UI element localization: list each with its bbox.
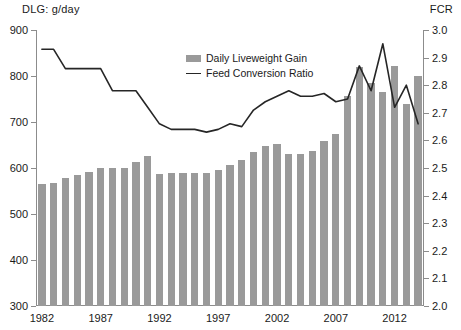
left-tick-label: 300 [10,301,28,312]
right-tick-label: 3.0 [432,25,447,36]
right-tick-mark [424,223,429,224]
line-swatch-icon [186,73,201,74]
legend-label-dlg: Daily Liveweight Gain [206,52,307,64]
left-tick-label: 800 [10,71,28,82]
right-tick-label: 2.3 [432,218,447,229]
right-tick-label: 2.7 [432,107,447,118]
right-tick-mark [424,251,429,252]
right-tick-label: 2.1 [432,273,447,284]
right-tick-label: 2.8 [432,80,447,91]
right-tick-mark [424,85,429,86]
x-tick-label: 1982 [30,313,54,324]
right-tick-mark [424,168,429,169]
bar-swatch-icon [186,55,201,62]
right-tick-mark [424,30,429,31]
x-tick-label: 1997 [206,313,230,324]
left-tick-label: 900 [10,25,28,36]
right-tick-label: 2.6 [432,135,447,146]
right-tick-label: 2.4 [432,190,447,201]
left-tick-label: 600 [10,163,28,174]
x-tick-label: 2002 [265,313,289,324]
right-tick-mark [424,278,429,279]
right-tick-mark [424,140,429,141]
x-tick-label: 1992 [147,313,171,324]
chart-legend: Daily Liveweight Gain Feed Conversion Ra… [186,52,313,79]
left-tick-label: 500 [10,209,28,220]
left-tick-label: 700 [10,117,28,128]
right-tick-label: 2.9 [432,52,447,63]
plot-area: 300400500600700800900 2.02.12.22.32.42.5… [36,30,424,306]
right-axis-caption: FCR [430,3,453,15]
right-tick-mark [424,58,429,59]
legend-label-fcr: Feed Conversion Ratio [206,67,313,79]
left-tick-mark [31,306,36,307]
right-tick-label: 2.5 [432,163,447,174]
x-tick-label: 1987 [88,313,112,324]
legend-item-feed-conversion-ratio: Feed Conversion Ratio [186,67,313,79]
right-tick-mark [424,113,429,114]
legend-item-daily-liveweight-gain: Daily Liveweight Gain [186,52,313,64]
left-tick-label: 400 [10,255,28,266]
x-tick-label: 2012 [382,313,406,324]
right-tick-mark [424,196,429,197]
right-tick-mark [424,306,429,307]
x-tick-label: 2007 [324,313,348,324]
chart-container: DLG: g/day FCR 300400500600700800900 2.0… [0,0,461,330]
right-tick-label: 2.2 [432,245,447,256]
left-axis-caption: DLG: g/day [22,3,80,15]
right-tick-label: 2.0 [432,301,447,312]
